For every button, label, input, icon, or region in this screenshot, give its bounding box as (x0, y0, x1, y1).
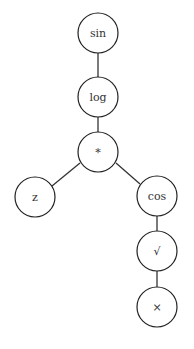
tree-node: log (78, 77, 118, 117)
nodes: sinlog*zcos√× (15, 13, 177, 327)
node-label: sin (90, 27, 106, 40)
tree-node: × (137, 287, 177, 327)
node-label: z (32, 191, 38, 204)
tree-node: * (78, 132, 118, 172)
tree-node: cos (137, 176, 177, 216)
node-label: × (152, 301, 161, 314)
node-label: √ (153, 245, 161, 258)
node-label: * (95, 146, 101, 159)
node-label: cos (148, 190, 167, 203)
edge-mul-cos (116, 163, 140, 184)
tree-node: √ (137, 231, 177, 271)
node-label: log (89, 91, 106, 104)
tree-node: z (15, 177, 55, 217)
expression-tree-diagram: sinlog*zcos√× (0, 0, 194, 349)
tree-node: sin (78, 13, 118, 53)
edge-mul-z (52, 163, 80, 186)
